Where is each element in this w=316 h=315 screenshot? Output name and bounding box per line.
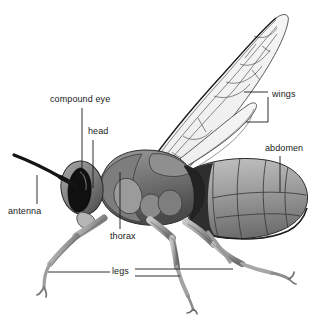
- leg-front-tibia: [50, 236, 77, 264]
- leg-front-claw: [37, 287, 46, 297]
- label-wings: wings: [272, 89, 296, 99]
- leg-hind-claw: [289, 272, 296, 284]
- leg-mid-tarsus: [188, 296, 193, 309]
- label-head: head: [88, 126, 108, 136]
- label-antenna: antenna: [8, 206, 41, 216]
- label-compound-eye: compound eye: [50, 94, 110, 104]
- leg-mid-claw: [187, 309, 197, 314]
- leg-hind-tibia: [242, 264, 272, 273]
- insect-illustration: [0, 0, 316, 315]
- thorax-lobe-lower-b: [158, 190, 182, 216]
- insect-anatomy-diagram: compound eye head antenna thorax legs wi…: [0, 0, 316, 315]
- leg-mid-tibia: [177, 267, 188, 296]
- leg-front-tarsus: [44, 264, 50, 287]
- label-abdomen: abdomen: [265, 143, 303, 153]
- label-legs: legs: [112, 266, 129, 276]
- leg-hind-tarsus: [272, 273, 289, 279]
- label-thorax: thorax: [110, 231, 136, 241]
